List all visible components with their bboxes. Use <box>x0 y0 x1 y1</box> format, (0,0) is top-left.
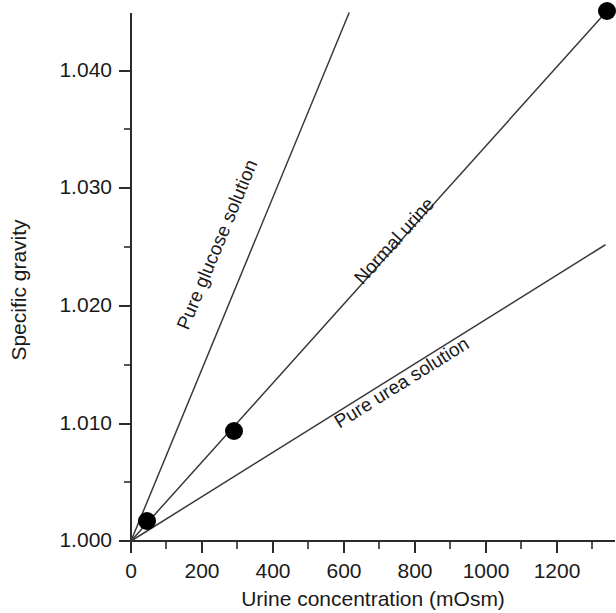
chart-figure: 1.040 1.030 1.020 1.010 1.000 0 200 400 … <box>0 0 616 613</box>
series-label-normal-urine: Normal urine <box>350 193 438 288</box>
x-tick-label-200: 200 <box>184 559 219 582</box>
y-axis-title: Specific gravity <box>7 219 30 361</box>
y-tick-label-1020: 1.020 <box>59 293 112 316</box>
y-tick-label-1040: 1.040 <box>59 58 112 81</box>
x-tick-label-0: 0 <box>125 559 137 582</box>
datapoint-normal-urine-upper <box>598 2 616 20</box>
datapoint-normal-urine <box>225 422 243 440</box>
x-tick-label-1200: 1200 <box>534 559 581 582</box>
x-tick-label-1000: 1000 <box>463 559 510 582</box>
series-line-pure-glucose-solution <box>131 13 349 541</box>
series-label-pure-urea-solution: Pure urea solution <box>331 333 473 433</box>
x-tick-label-400: 400 <box>255 559 290 582</box>
datapoint-pure-glucose-solution <box>138 512 156 530</box>
y-tick-label-1010: 1.010 <box>59 411 112 434</box>
x-tick-label-800: 800 <box>397 559 432 582</box>
specific-gravity-vs-urine-concentration-chart: 1.040 1.030 1.020 1.010 1.000 0 200 400 … <box>0 0 616 613</box>
y-tick-label-1000: 1.000 <box>59 528 112 551</box>
x-axis-title: Urine concentration (mOsm) <box>241 587 505 610</box>
x-tick-label-600: 600 <box>326 559 361 582</box>
series-label-pure-glucose-solution: Pure glucose solution <box>173 157 262 333</box>
y-tick-label-1030: 1.030 <box>59 175 112 198</box>
